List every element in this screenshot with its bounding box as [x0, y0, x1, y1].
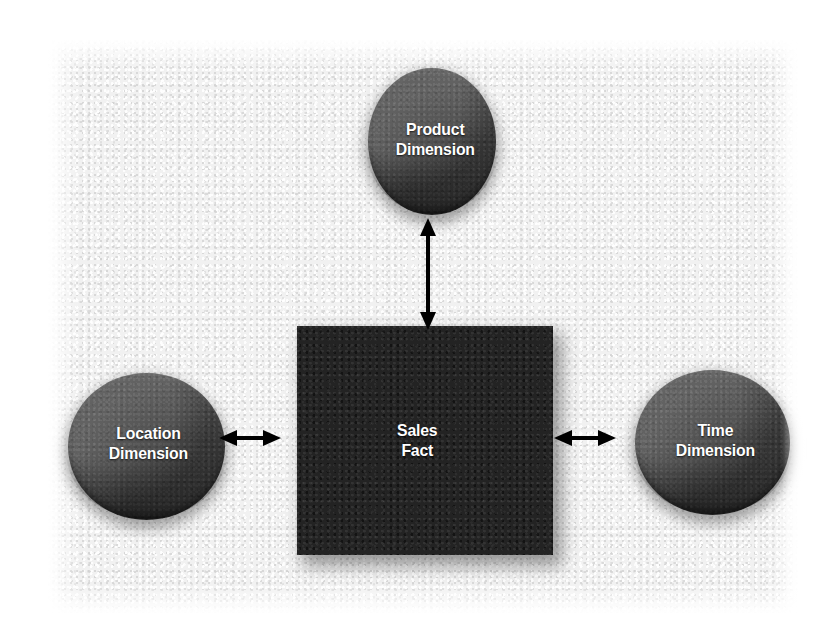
node-location-dimension-label: Location Dimension — [109, 424, 188, 462]
arrow-location-to-fact — [219, 420, 281, 456]
diagram-canvas: Product Dimension Location Dimension Tim… — [0, 0, 839, 644]
arrow-product-to-fact — [408, 218, 448, 330]
node-product-dimension-label: Product Dimension — [396, 120, 475, 158]
node-sales-fact[interactable]: Sales Fact — [297, 326, 553, 555]
node-sales-fact-label: Sales Fact — [397, 421, 437, 459]
node-time-dimension[interactable]: Time Dimension — [635, 370, 790, 515]
node-product-dimension[interactable]: Product Dimension — [368, 68, 496, 215]
node-time-dimension-label: Time Dimension — [676, 421, 755, 459]
node-location-dimension[interactable]: Location Dimension — [68, 373, 225, 520]
arrow-fact-to-time — [554, 420, 616, 456]
